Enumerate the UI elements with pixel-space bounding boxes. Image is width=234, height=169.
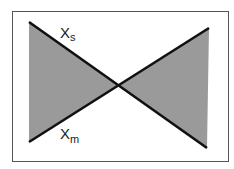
xs-label-main: X <box>60 24 70 41</box>
xs-label-sub: s <box>70 31 76 43</box>
xm-label-main: X <box>60 125 70 142</box>
xm-label-sub: m <box>70 133 79 145</box>
bowtie-diagram: Xs Xm <box>0 0 234 169</box>
